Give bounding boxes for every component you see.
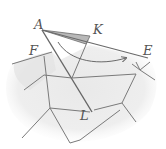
label-e: E xyxy=(142,43,153,58)
sketch-diagram: A K F E L xyxy=(0,0,166,149)
label-a: A xyxy=(33,17,43,32)
label-k: K xyxy=(92,22,104,37)
label-l: L xyxy=(79,108,89,123)
label-f: F xyxy=(28,43,39,58)
diagram-svg: A K F E L xyxy=(0,0,166,149)
